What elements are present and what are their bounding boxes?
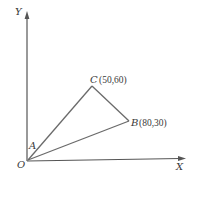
point-c-label: C: [90, 74, 98, 85]
x-axis-label: X: [175, 161, 184, 172]
point-b-coords: (80,30): [139, 118, 167, 129]
coordinate-diagram: Y X O A C (50,60) B (80,30): [0, 0, 205, 201]
point-a-label: A: [28, 140, 36, 151]
edge-oc: [28, 86, 92, 160]
x-axis: [27, 156, 186, 161]
point-b-label: B: [130, 117, 138, 128]
edge-cb: [92, 86, 129, 121]
edge-ob: [28, 121, 129, 160]
y-axis-arrow-icon: [25, 11, 30, 19]
y-axis: [25, 11, 30, 161]
point-c-coords: (50,60): [99, 75, 127, 86]
triangle-abc: [28, 86, 129, 160]
y-axis-label: Y: [15, 6, 23, 17]
origin-label: O: [17, 159, 25, 170]
